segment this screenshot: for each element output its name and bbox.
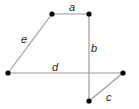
vertex-left [5,70,10,75]
vertex-right [120,70,125,75]
edge-label-e: e [21,33,27,45]
vertex-bottom [86,98,91,103]
vertex-top-left [49,11,54,16]
edge-e [8,14,52,73]
edge-label-a: a [69,1,75,13]
vertex-top-right [86,11,91,16]
edge-label-d: d [52,61,59,73]
edge-label-c: c [106,91,112,103]
edge-label-b: b [91,42,97,54]
graph-diagram: a b c d e [0,0,139,109]
